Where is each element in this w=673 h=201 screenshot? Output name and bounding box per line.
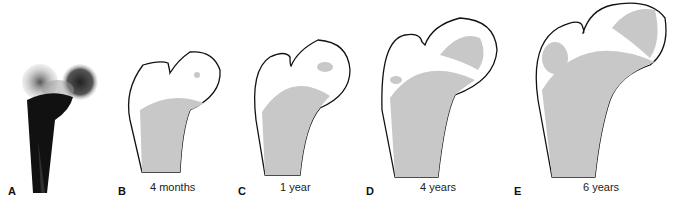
femur-ossification-figure: A B 4 months C 1 year D 4 years E 6 year…: [0, 0, 673, 201]
panel-letter-c: C: [238, 185, 246, 197]
panel-letter-b: B: [118, 185, 126, 197]
panel-caption-d: 4 years: [420, 181, 456, 193]
panel-letter-a: A: [8, 185, 16, 197]
panel-a-radiograph: [22, 64, 98, 193]
panel-c-femur: [255, 40, 350, 175]
panel-e-femur: [536, 3, 666, 177]
panel-caption-c: 1 year: [280, 181, 311, 193]
panel-letter-e: E: [514, 185, 521, 197]
diagram-canvas: [0, 0, 673, 201]
panel-caption-e: 6 years: [583, 181, 619, 193]
panel-caption-b: 4 months: [150, 181, 195, 193]
panel-letter-d: D: [366, 185, 374, 197]
panel-d-femur: [382, 18, 497, 177]
panel-b-femur: [129, 52, 221, 172]
